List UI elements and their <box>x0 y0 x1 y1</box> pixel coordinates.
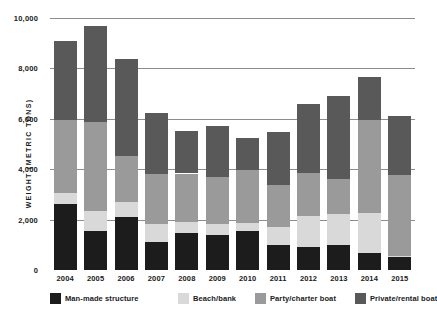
x-tick-label: 2015 <box>385 274 415 283</box>
bar-segment[interactable] <box>358 253 381 270</box>
legend-label: Party/charter boat <box>270 294 336 303</box>
x-tick-label: 2011 <box>263 274 293 283</box>
legend-swatch-icon <box>255 293 266 304</box>
bar-segment[interactable] <box>84 26 107 122</box>
bar-segment[interactable] <box>54 204 77 270</box>
bar-group[interactable] <box>145 18 168 270</box>
bar-segment[interactable] <box>54 120 77 193</box>
bar-segment[interactable] <box>145 224 168 241</box>
bar-segment[interactable] <box>175 222 198 233</box>
bar-segment[interactable] <box>297 247 320 270</box>
bar-segment[interactable] <box>236 170 259 223</box>
x-tick-label: 2004 <box>50 274 80 283</box>
bar-segment[interactable] <box>54 193 77 204</box>
legend-item[interactable]: Man-made structure <box>50 292 138 304</box>
bar-segment[interactable] <box>388 256 411 258</box>
bar-segment[interactable] <box>206 235 229 270</box>
bar-segment[interactable] <box>115 202 138 217</box>
bar-segment[interactable] <box>84 231 107 270</box>
x-tick-label: 2007 <box>141 274 171 283</box>
legend-label: Man-made structure <box>65 294 138 303</box>
bar-segment[interactable] <box>175 131 198 174</box>
legend-swatch-icon <box>50 293 61 304</box>
y-tick-label: 10,000 <box>0 14 38 23</box>
bar-segment[interactable] <box>327 245 350 270</box>
bar-segment[interactable] <box>236 231 259 270</box>
bar-segment[interactable] <box>115 217 138 270</box>
bar-segment[interactable] <box>206 177 229 224</box>
x-tick-label: 2010 <box>233 274 263 283</box>
x-tick-label: 2005 <box>80 274 110 283</box>
legend-item[interactable]: Party/charter boat <box>255 292 336 304</box>
legend-swatch-icon <box>355 293 366 304</box>
x-tick-label: 2014 <box>354 274 384 283</box>
y-tick-label: 6,000 <box>0 115 38 124</box>
bar-segment[interactable] <box>297 173 320 216</box>
bar-segment[interactable] <box>388 116 411 175</box>
bar-segment[interactable] <box>206 126 229 177</box>
x-tick-label: 2012 <box>293 274 323 283</box>
bar-group[interactable] <box>358 18 381 270</box>
bar-segment[interactable] <box>236 138 259 171</box>
bar-segment[interactable] <box>388 175 411 256</box>
bar-segment[interactable] <box>388 257 411 270</box>
y-tick-label: 2,000 <box>0 216 38 225</box>
bar-segment[interactable] <box>145 113 168 174</box>
bar-segment[interactable] <box>267 185 290 228</box>
bar-group[interactable] <box>54 18 77 270</box>
legend-label: Beach/bank <box>193 294 236 303</box>
x-tick-label: 2008 <box>172 274 202 283</box>
bar-group[interactable] <box>115 18 138 270</box>
bar-group[interactable] <box>267 18 290 270</box>
bar-segment[interactable] <box>297 216 320 247</box>
bar-segment[interactable] <box>206 224 229 236</box>
bar-group[interactable] <box>388 18 411 270</box>
bar-segment[interactable] <box>145 174 168 224</box>
bar-segment[interactable] <box>327 214 350 244</box>
bar-group[interactable] <box>236 18 259 270</box>
bar-series-container <box>50 18 415 270</box>
bar-group[interactable] <box>84 18 107 270</box>
bar-segment[interactable] <box>175 174 198 223</box>
x-tick-label: 2013 <box>324 274 354 283</box>
y-axis-title: WEIGHT (METRIC TONS) <box>25 69 32 239</box>
bar-segment[interactable] <box>84 211 107 231</box>
legend-item[interactable]: Beach/bank <box>178 292 236 304</box>
x-tick-label: 2009 <box>202 274 232 283</box>
bar-segment[interactable] <box>358 120 381 212</box>
bar-segment[interactable] <box>358 77 381 120</box>
x-tick-label: 2006 <box>111 274 141 283</box>
bar-segment[interactable] <box>84 122 107 211</box>
bar-group[interactable] <box>297 18 320 270</box>
legend-label: Private/rental boat <box>370 294 437 303</box>
bar-segment[interactable] <box>327 96 350 178</box>
legend-item[interactable]: Private/rental boat <box>355 292 437 304</box>
y-tick-label: 8,000 <box>0 64 38 73</box>
bar-segment[interactable] <box>236 223 259 231</box>
bar-segment[interactable] <box>267 132 290 184</box>
bar-group[interactable] <box>206 18 229 270</box>
bar-segment[interactable] <box>115 59 138 157</box>
bar-segment[interactable] <box>54 41 77 119</box>
bar-segment[interactable] <box>145 242 168 270</box>
bar-segment[interactable] <box>358 213 381 253</box>
bar-segment[interactable] <box>175 233 198 270</box>
bar-segment[interactable] <box>115 156 138 202</box>
plot-area: 02,0004,0006,0008,00010,000 200420052006… <box>50 18 415 274</box>
bar-segment[interactable] <box>267 227 290 244</box>
legend-swatch-icon <box>178 293 189 304</box>
bar-segment[interactable] <box>297 104 320 173</box>
bar-group[interactable] <box>327 18 350 270</box>
bar-segment[interactable] <box>267 245 290 270</box>
bar-segment[interactable] <box>327 179 350 215</box>
y-tick-label: 4,000 <box>0 165 38 174</box>
chart-legend: Man-made structureBeach/bankParty/charte… <box>50 292 418 306</box>
bar-group[interactable] <box>175 18 198 270</box>
y-tick-label: 0 <box>0 266 38 275</box>
